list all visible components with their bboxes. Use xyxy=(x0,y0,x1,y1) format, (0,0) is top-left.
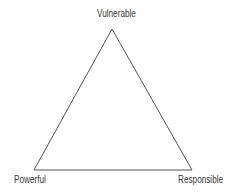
triangle-diagram: Vulnerable Powerful Responsible xyxy=(0,0,231,192)
vertex-label-responsible: Responsible xyxy=(178,175,223,185)
vertex-label-vulnerable: Vulnerable xyxy=(97,9,136,19)
vertex-label-powerful: Powerful xyxy=(14,175,46,185)
triangle-outline xyxy=(34,29,192,170)
triangle-shape xyxy=(0,0,231,192)
